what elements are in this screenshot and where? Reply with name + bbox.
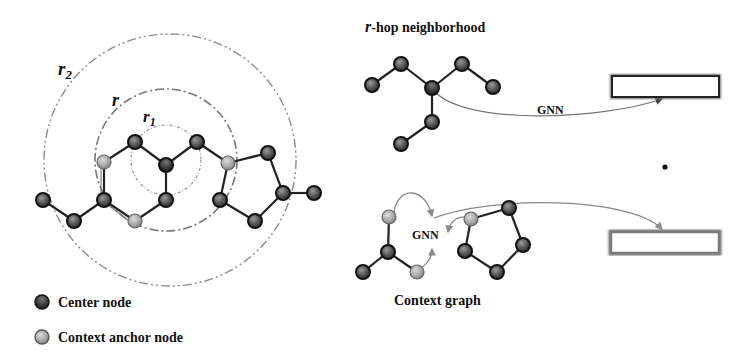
neighborhood-embedding-box: [612, 76, 719, 97]
context-nodes: [356, 201, 530, 279]
node: [190, 135, 204, 149]
node: [490, 265, 504, 279]
node: [381, 245, 395, 259]
neighborhood-title: r-hop neighborhood: [365, 18, 485, 35]
neighborhood-edges: [372, 64, 493, 144]
node: [307, 186, 321, 200]
node: [128, 135, 142, 149]
context-gnn-label: GNN: [412, 228, 439, 242]
anchor-node: [221, 156, 235, 170]
node: [67, 214, 81, 228]
anchor-node: [410, 265, 424, 279]
node: [394, 137, 408, 151]
anchor-to-gnn-arrow: [394, 193, 432, 216]
center-node: [159, 158, 173, 172]
node: [455, 57, 469, 71]
node: [516, 238, 530, 252]
r1-label: r1: [143, 107, 156, 129]
node: [486, 80, 500, 94]
legend-center-node-label: Center node: [58, 295, 131, 310]
anchor-bottom-to-gnn-arrow: [421, 249, 432, 268]
node: [248, 214, 262, 228]
node: [276, 186, 290, 200]
legend: Center node Context anchor node: [35, 295, 183, 345]
node: [394, 57, 408, 71]
anchor-node: [128, 214, 142, 228]
legend-center-node-icon: [35, 295, 49, 309]
node: [502, 201, 516, 215]
context-embedding-box: [611, 232, 719, 253]
anchor-node: [97, 155, 111, 169]
anchor-node: [382, 210, 396, 224]
anchor-node: [464, 212, 478, 226]
node: [159, 193, 173, 207]
node: [458, 244, 472, 258]
node: [213, 193, 227, 207]
node: [365, 78, 379, 92]
center-node: [425, 81, 439, 95]
node: [36, 193, 50, 207]
node: [425, 115, 439, 129]
node: [97, 193, 111, 207]
separator-dot: [662, 164, 667, 169]
r-label: r: [112, 90, 120, 110]
diagram-canvas: r2 r r1: [0, 0, 755, 363]
legend-anchor-node-label: Context anchor node: [58, 330, 183, 345]
node: [356, 265, 370, 279]
node: [261, 146, 275, 160]
neighborhood-gnn-label: GNN: [537, 103, 564, 117]
r2-label: r2: [58, 58, 72, 82]
legend-anchor-node-icon: [35, 330, 49, 344]
context-title: Context graph: [394, 293, 481, 308]
